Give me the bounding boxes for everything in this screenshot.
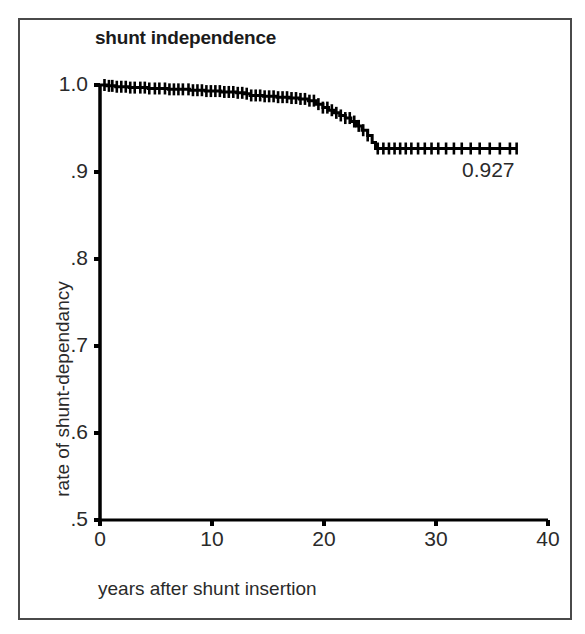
figure-container: shunt independence 1.0 .9 .8 .7 .6 .5 0 … <box>0 0 585 634</box>
censoring-marks <box>104 79 516 155</box>
plot-area <box>0 0 585 634</box>
